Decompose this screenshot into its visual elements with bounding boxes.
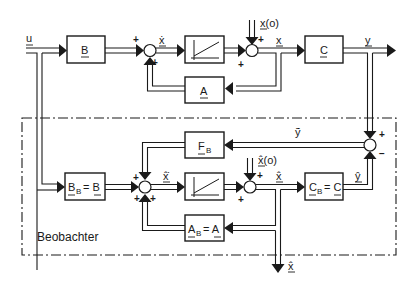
observer-block-diagram: u B + + ẋ + x(o) + x <box>0 0 414 289</box>
sign-plus: + <box>258 34 264 45</box>
arrow-head <box>364 151 377 159</box>
sign-plus: + <box>134 193 140 204</box>
signal-x-dot-label: ẋ <box>159 34 165 46</box>
summing-junction-observer-1 <box>139 181 151 193</box>
svg-text:B: B <box>76 187 81 196</box>
observer-caption: Beobachter <box>37 230 98 244</box>
block-C-label: C <box>320 44 328 56</box>
signal-u-label: u <box>26 32 32 44</box>
svg-text:B: B <box>317 187 322 196</box>
svg-text:B: B <box>206 146 211 155</box>
block-C-B: C B = C <box>305 173 343 200</box>
svg-text:= C: = C <box>324 181 341 193</box>
sign-plus: + <box>150 193 156 204</box>
svg-text:B: B <box>196 229 201 238</box>
signal-integrator-observer-out-line <box>224 185 237 190</box>
signal-y-label: y <box>365 34 371 46</box>
signal-y-tilde-label: ỹ <box>295 126 301 138</box>
block-C-B-label: C <box>309 181 317 193</box>
arrow-head <box>297 44 305 57</box>
block-F-B: F B <box>185 132 224 158</box>
block-A-B: A B = A <box>185 215 224 241</box>
block-B: B <box>67 36 105 63</box>
arrow-head <box>244 173 257 181</box>
arrow-head <box>177 44 185 57</box>
arrow-head <box>225 82 233 95</box>
signal-Ax-line <box>148 64 186 91</box>
signal-y-tilde-line <box>233 143 364 148</box>
arrow-head <box>224 139 233 151</box>
signal-x0-label: x(o) <box>260 17 279 29</box>
sign-minus: − <box>379 148 385 159</box>
signal-Fy-line <box>143 143 186 174</box>
sign-plus: + <box>133 34 139 45</box>
sign-plus: + <box>238 59 244 70</box>
block-B-B-label: B <box>68 181 75 193</box>
arrow-head <box>177 181 185 193</box>
arrow-head <box>236 181 244 193</box>
arrow-head <box>224 222 233 234</box>
summing-junction-output-error <box>364 139 376 151</box>
block-C: C <box>305 36 343 63</box>
svg-text:= B: = B <box>83 181 100 193</box>
arrow-head <box>59 44 67 57</box>
signal-x-label: x <box>276 34 282 46</box>
arrow-head <box>297 181 305 193</box>
block-A: A <box>185 77 224 103</box>
block-B-B: B B = B <box>65 173 105 200</box>
signal-x0-line <box>250 20 255 38</box>
block-F-B-label: F <box>198 140 205 152</box>
signal-x-dot-line <box>156 48 177 53</box>
signal-x-hat-dot-line <box>151 185 177 190</box>
signal-x-hat0-line <box>248 158 253 174</box>
signal-x-hat-dot-label: x̂̇ <box>163 170 170 182</box>
signal-Bu-observer-line <box>105 185 131 190</box>
arrow-head <box>139 172 152 180</box>
signal-x-hat-label: x̂ <box>276 170 282 182</box>
arrow-head <box>238 44 246 57</box>
signal-Bu-line <box>105 48 137 53</box>
block-A-label: A <box>200 85 208 97</box>
sign-plus: + <box>238 194 244 205</box>
signal-x-hat0-label: x̂(o) <box>258 154 277 166</box>
sign-plus: + <box>379 129 385 140</box>
block-integrator-plant <box>185 36 224 63</box>
signal-integrator-out-line <box>224 48 239 53</box>
arrow-head <box>136 44 144 57</box>
summing-junction-plant-1 <box>144 45 156 57</box>
summing-junction-observer-2 <box>244 181 256 193</box>
arrow-head <box>57 181 65 193</box>
arrow-head-x-hat-output <box>272 264 285 273</box>
sign-plus: + <box>133 172 139 183</box>
svg-text:= A: = A <box>203 223 220 235</box>
signal-A-x-hat-line <box>143 201 186 231</box>
signal-x-hat-output-label: x̂ <box>288 260 294 272</box>
block-integrator-observer <box>185 173 224 200</box>
summing-junction-plant-2 <box>246 45 258 57</box>
signal-y-hat-label: ŷ <box>355 170 361 182</box>
block-B-label: B <box>81 44 88 56</box>
sign-plus: + <box>257 170 263 181</box>
arrow-head <box>364 131 377 139</box>
arrow-head-y-output <box>387 44 396 57</box>
block-A-B-label: A <box>188 223 196 235</box>
arrow-head <box>246 37 259 45</box>
